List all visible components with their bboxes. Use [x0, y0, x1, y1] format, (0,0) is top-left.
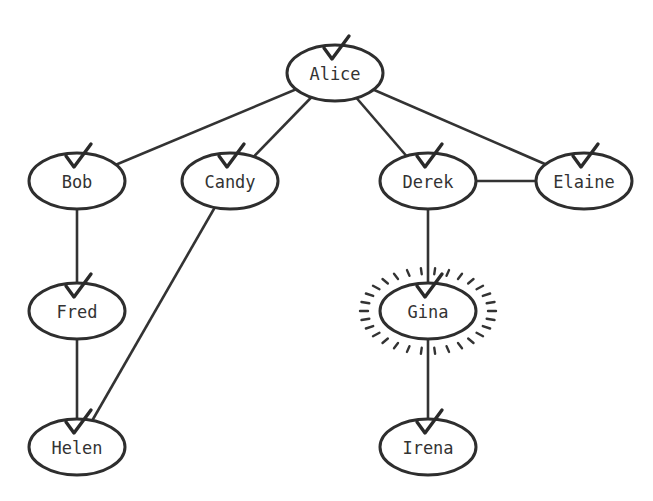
node-elaine[interactable]: Elaine	[536, 144, 632, 209]
node-bob[interactable]: Bob	[29, 144, 125, 209]
highlight-ray	[434, 268, 435, 274]
highlight-ray	[458, 343, 462, 348]
node-label: Gina	[408, 302, 449, 322]
highlight-ray	[447, 346, 449, 352]
node-label: Bob	[62, 172, 93, 192]
node-alice[interactable]: Alice	[287, 36, 383, 101]
highlight-ray	[477, 333, 483, 337]
node-candy[interactable]: Candy	[182, 144, 278, 209]
graph-diagram: AliceBobCandyDerekElaineFredGinaHelenIre…	[0, 0, 653, 501]
node-label: Alice	[309, 64, 360, 84]
highlight-ray	[394, 343, 398, 348]
highlight-ray	[366, 294, 373, 296]
highlight-ray	[382, 279, 387, 283]
highlight-ray	[373, 286, 379, 290]
node-label: Irena	[402, 438, 453, 458]
highlight-ray	[468, 338, 473, 342]
highlight-ray	[361, 319, 369, 320]
highlight-ray	[447, 270, 449, 276]
highlight-ray	[487, 302, 495, 303]
highlight-ray	[366, 326, 373, 328]
edges	[77, 73, 584, 447]
nodes: AliceBobCandyDerekElaineFredGinaHelenIre…	[29, 36, 632, 475]
highlight-ray	[468, 279, 473, 283]
node-fred[interactable]: Fred	[29, 274, 125, 339]
highlight-ray	[477, 286, 483, 290]
highlight-ray	[487, 319, 495, 320]
highlight-ray	[407, 346, 409, 352]
highlight-ray	[361, 302, 369, 303]
highlight-ray	[458, 274, 462, 279]
node-label: Derek	[402, 172, 453, 192]
node-irena[interactable]: Irena	[380, 410, 476, 475]
node-label: Candy	[204, 172, 255, 192]
highlight-ray	[373, 333, 379, 337]
highlight-ray	[407, 270, 409, 276]
node-label: Helen	[51, 438, 102, 458]
highlight-ray	[382, 338, 387, 342]
node-label: Fred	[57, 302, 98, 322]
node-gina[interactable]: Gina	[380, 274, 476, 339]
node-derek[interactable]: Derek	[380, 144, 476, 209]
highlight-ray	[394, 274, 398, 279]
node-label: Elaine	[553, 172, 614, 192]
highlight-ray	[421, 348, 422, 354]
highlight-ray	[434, 348, 435, 354]
highlight-ray	[483, 326, 490, 328]
highlight-ray	[483, 294, 490, 296]
highlight-ray	[421, 268, 422, 274]
node-helen[interactable]: Helen	[29, 410, 125, 475]
